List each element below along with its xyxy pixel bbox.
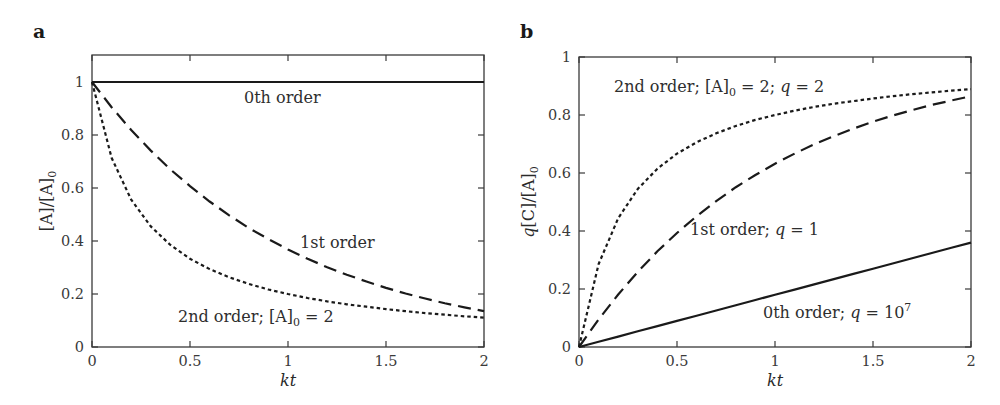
x-tick-label: 1.5 bbox=[861, 353, 884, 369]
y-tick-label: 0.4 bbox=[548, 223, 571, 239]
annotation-2nd-order-a: 2nd order; [A]0 = 2 bbox=[178, 307, 334, 329]
panel-b: b 00.511.5200.20.40.60.81 q[C]/[A]0 kt 2… bbox=[519, 20, 976, 390]
x-tick-label: 2 bbox=[479, 353, 488, 369]
panel-letter-a: a bbox=[33, 20, 45, 42]
annotation-0th-order-a: 0th order bbox=[244, 88, 321, 107]
y-tick-label: 0.2 bbox=[61, 286, 84, 302]
y-axis-label-b: q[C]/[A]0 bbox=[519, 166, 541, 237]
x-tick-label: 1 bbox=[770, 353, 779, 369]
x-axis-label-b: kt bbox=[767, 371, 784, 390]
y-tick-label: 1 bbox=[75, 74, 84, 90]
figure: a 00.511.5200.20.40.60.81 [A]/[A]0 kt 0t… bbox=[0, 0, 1000, 405]
x-tick-label: 0.5 bbox=[178, 353, 201, 369]
x-tick-label: 2 bbox=[966, 353, 975, 369]
x-tick-label: 0.5 bbox=[665, 353, 688, 369]
y-tick-label: 0.8 bbox=[61, 127, 84, 143]
figure-canvas: a 00.511.5200.20.40.60.81 [A]/[A]0 kt 0t… bbox=[0, 0, 1000, 405]
y-tick-label: 1 bbox=[562, 49, 571, 65]
x-tick-label: 0 bbox=[574, 353, 583, 369]
y-tick-label: 0 bbox=[562, 339, 571, 355]
x-tick-label: 0 bbox=[87, 353, 96, 369]
y-tick-label: 0.2 bbox=[548, 281, 571, 297]
tick-labels-b: 00.511.5200.20.40.60.81 bbox=[548, 49, 976, 369]
y-tick-label: 0.6 bbox=[548, 165, 571, 181]
y-tick-label: 0.4 bbox=[61, 233, 84, 249]
y-tick-label: 0.8 bbox=[548, 107, 571, 123]
annotation-2nd-order-b: 2nd order; [A]0 = 2; q = 2 bbox=[614, 77, 824, 99]
y-tick-label: 0 bbox=[75, 339, 84, 355]
panel-letter-b: b bbox=[520, 20, 533, 42]
annotation-0th-order-b: 0th order; q = 107 bbox=[763, 301, 911, 322]
y-tick-label: 0.6 bbox=[61, 180, 84, 196]
annotation-1st-order-b: 1st order; q = 1 bbox=[690, 220, 819, 239]
x-tick-label: 1.5 bbox=[374, 353, 397, 369]
series-line bbox=[579, 243, 971, 347]
x-axis-label-a: kt bbox=[280, 371, 297, 390]
x-tick-label: 1 bbox=[283, 353, 292, 369]
series-line bbox=[92, 82, 484, 318]
curves-a bbox=[92, 82, 484, 318]
y-axis-label-a: [A]/[A]0 bbox=[37, 171, 59, 231]
series-line bbox=[92, 82, 484, 311]
annotation-1st-order-a: 1st order bbox=[300, 233, 375, 252]
panel-a: a 00.511.5200.20.40.60.81 [A]/[A]0 kt 0t… bbox=[33, 20, 489, 390]
